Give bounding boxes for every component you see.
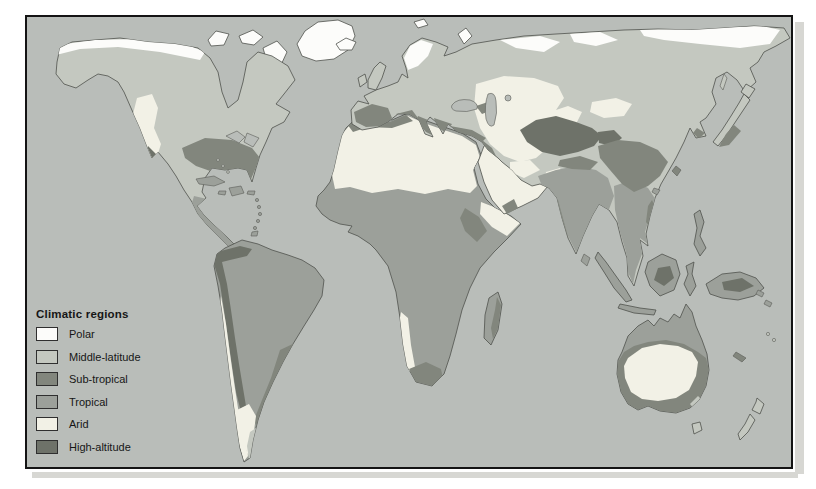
legend-label: Middle-latitude	[69, 350, 141, 364]
legend-item: Middle-latitude	[36, 349, 186, 365]
world-map: Climatic regions Polar Middle-latitude S…	[0, 0, 816, 489]
frame-shadow-right	[795, 22, 804, 474]
map-legend: Climatic regions Polar Middle-latitude S…	[36, 308, 186, 461]
legend-item: Tropical	[36, 394, 186, 410]
legend-item: High-altitude	[36, 439, 186, 455]
page: Climatic regions Polar Middle-latitude S…	[0, 0, 816, 489]
legend-swatch-polar	[36, 327, 58, 341]
legend-swatch-sub_tropical	[36, 372, 58, 386]
legend-label: Sub-tropical	[69, 372, 128, 386]
legend-title: Climatic regions	[36, 308, 186, 320]
legend-swatch-tropical	[36, 395, 58, 409]
legend-swatch-arid	[36, 417, 58, 431]
frame-shadow-bottom	[32, 472, 798, 478]
legend-item: Sub-tropical	[36, 371, 186, 387]
legend-items: Polar Middle-latitude Sub-tropical Tropi…	[36, 326, 186, 455]
legend-swatch-high_altitude	[36, 440, 58, 454]
legend-swatch-middle_latitude	[36, 350, 58, 364]
legend-label: Tropical	[69, 395, 108, 409]
legend-label: High-altitude	[69, 440, 131, 454]
legend-item: Polar	[36, 326, 186, 342]
legend-label: Arid	[69, 417, 89, 431]
legend-item: Arid	[36, 416, 186, 432]
legend-label: Polar	[69, 327, 95, 341]
